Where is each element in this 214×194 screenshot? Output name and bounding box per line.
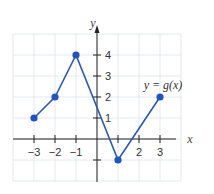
data-point	[156, 93, 163, 100]
x-tick-label: 3	[157, 146, 163, 158]
x-tick-label: −2	[49, 146, 62, 158]
x-tick-label: −3	[28, 146, 41, 158]
data-point	[51, 93, 58, 100]
y-tick-label: 3	[105, 70, 111, 82]
data-point	[30, 114, 37, 121]
y-tick-label: 2	[105, 91, 111, 103]
data-point	[72, 51, 79, 58]
data-point	[114, 156, 121, 163]
y-tick-label: 4	[105, 49, 111, 61]
y-axis-label: y	[89, 16, 96, 30]
function-label: y = g(x)	[143, 78, 183, 92]
x-tick-label: 2	[136, 146, 142, 158]
x-axis-label: x	[186, 132, 193, 146]
y-tick-label: 1	[105, 112, 111, 124]
axes	[13, 25, 176, 182]
x-tick-label: −1	[70, 146, 83, 158]
graph: y x −3−2−1231234 y = g(x)	[0, 0, 214, 194]
